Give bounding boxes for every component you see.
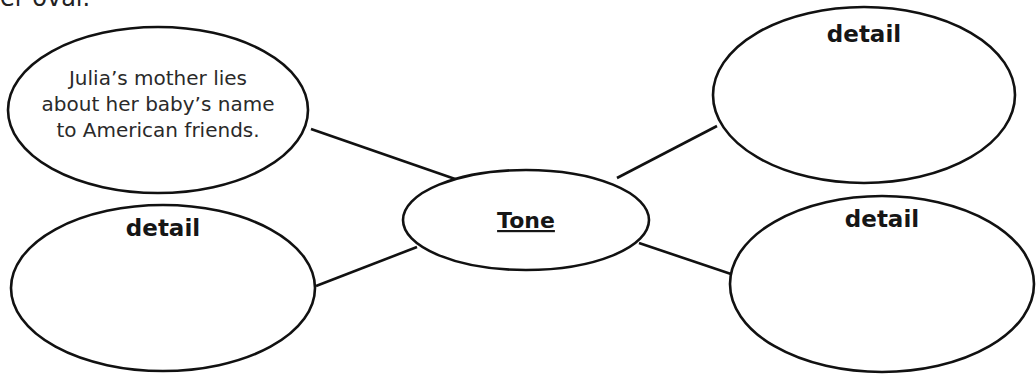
node-label: detail <box>126 215 200 241</box>
node-text-line: Julia’s mother lies <box>67 66 247 90</box>
node-label: detail <box>845 206 919 232</box>
connector-top-left <box>311 129 458 180</box>
connector-bottom-left <box>316 247 417 286</box>
node-top-left[interactable]: Julia’s mother lies about her baby’s nam… <box>8 27 308 193</box>
node-top-right[interactable]: detail <box>713 7 1015 183</box>
node-center: Tone <box>403 170 649 270</box>
connector-top-right <box>617 126 717 178</box>
node-text-line: to American friends. <box>56 118 259 142</box>
center-label: Tone <box>497 208 555 233</box>
node-text-line: about her baby’s name <box>42 92 275 116</box>
node-bottom-right[interactable]: detail <box>730 196 1034 372</box>
connector-bottom-right <box>639 243 731 274</box>
node-bottom-left[interactable]: detail <box>11 205 315 371</box>
tone-web-diagram: Julia’s mother lies about her baby’s nam… <box>0 0 1036 374</box>
node-label: detail <box>827 21 901 47</box>
